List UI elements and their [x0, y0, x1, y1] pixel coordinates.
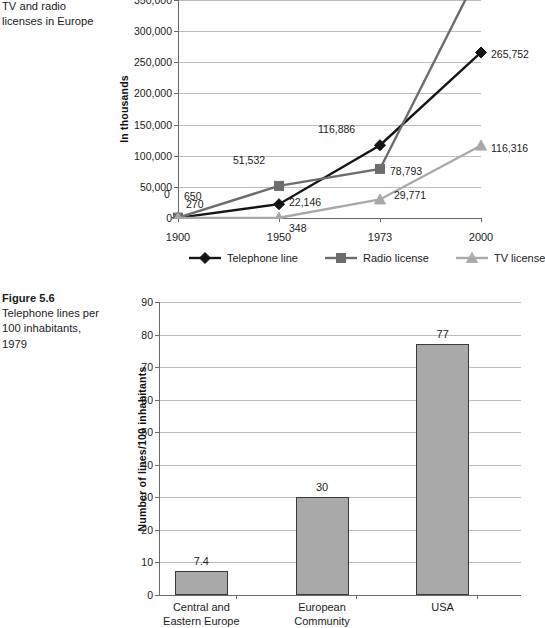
data-label: 29,771: [394, 189, 426, 201]
x-axis-category-label: USA: [431, 601, 454, 615]
x-axis-tick-label: 1900: [166, 231, 190, 243]
legend-item: Radio license: [324, 252, 429, 264]
data-label: 78,793: [390, 165, 422, 177]
series-marker: [200, 253, 211, 264]
legend-label: TV license: [494, 252, 545, 264]
y-axis-tick-label: 30: [141, 491, 153, 503]
series-line: [178, 0, 481, 218]
bar-value-label: 30: [316, 481, 328, 493]
x-axis-category-label: Central andEastern Europe: [163, 601, 239, 628]
y-axis-tick-label: 90: [141, 296, 153, 308]
y-axis-tick-label: 50: [141, 426, 153, 438]
legend-item: TV license: [455, 252, 545, 264]
bar-value-label: 7.4: [194, 555, 209, 567]
x-axis-tick: [356, 595, 357, 599]
gridline: [159, 335, 521, 336]
bar: [416, 344, 469, 595]
y-axis-line: [159, 302, 160, 595]
x-axis-tick-label: 1950: [267, 231, 291, 243]
y-axis-tick-label: 70: [141, 361, 153, 373]
legend-label: Radio license: [363, 252, 429, 264]
y-axis-tick: [155, 595, 159, 596]
data-label: 22,146: [289, 196, 321, 208]
series-marker: [275, 181, 284, 190]
data-label: 0: [164, 188, 170, 200]
y-axis-tick-label: 10: [141, 556, 153, 568]
data-label: 51,532: [233, 154, 265, 166]
y-axis-tick-label: 20: [141, 524, 153, 536]
legend-marker-icon: [324, 252, 358, 264]
bar: [296, 497, 349, 595]
y-axis-tick-label: 40: [141, 459, 153, 471]
data-label: 650: [184, 190, 202, 202]
gridline: [159, 302, 521, 303]
line-chart-legend: Telephone lineRadio licenseTV license: [188, 252, 545, 264]
series-line: [178, 146, 481, 218]
y-axis-tick-label: 60: [141, 394, 153, 406]
legend-label: Telephone line: [227, 252, 298, 264]
x-axis-tick-label: 2000: [469, 231, 493, 243]
bar: [175, 571, 228, 595]
series-marker: [476, 140, 487, 150]
series-marker: [274, 199, 285, 210]
line-chart-series-layer: [0, 0, 531, 270]
legend-item: Telephone line: [188, 252, 298, 264]
legend-marker-icon: [455, 252, 489, 264]
x-axis-category-label: EuropeanCommunity: [294, 601, 350, 628]
bar-chart: Number of lines/100 inhabitants 01020304…: [0, 296, 531, 626]
data-label: 116,316: [491, 142, 528, 154]
bar-chart-y-axis-title: Number of lines/100 inhabitants: [136, 366, 148, 531]
y-axis-tick-label: 0: [147, 589, 153, 601]
y-axis-tick-label: 80: [141, 329, 153, 341]
x-axis-tick: [236, 595, 237, 599]
data-label: 348: [289, 222, 307, 234]
line-chart: In thousands Telephone lineRadio license…: [0, 0, 531, 270]
data-label: 116,886: [318, 123, 355, 135]
bar-value-label: 77: [437, 328, 449, 340]
data-label: 265,752: [491, 48, 529, 60]
series-marker: [336, 254, 345, 263]
legend-marker-icon: [188, 252, 222, 264]
x-axis-tick: [477, 595, 478, 599]
gridline: [159, 595, 521, 596]
x-axis-tick-label: 1973: [368, 231, 392, 243]
series-marker: [376, 164, 385, 173]
